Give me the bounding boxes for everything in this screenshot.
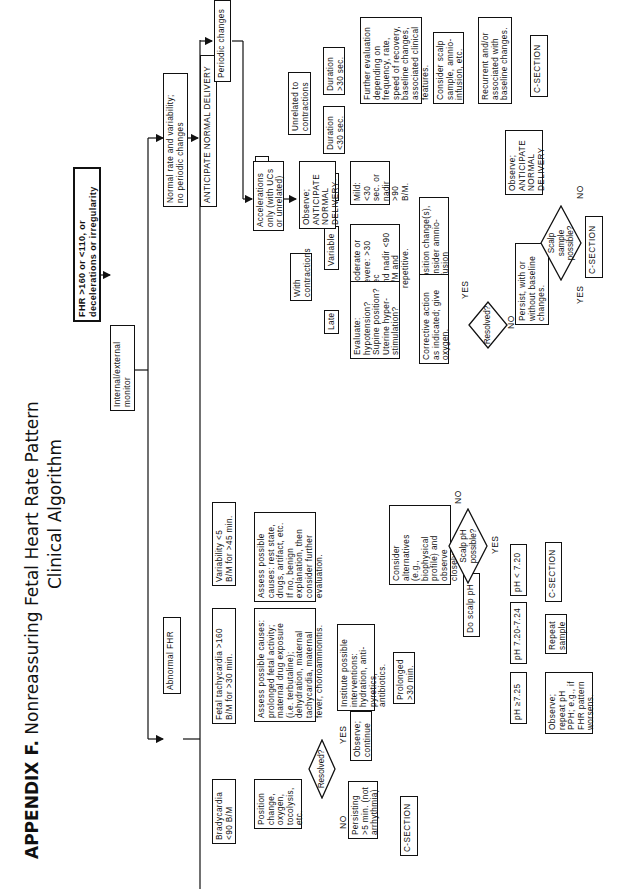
yes-label-scalp-sample: YES	[575, 285, 585, 304]
duration-lt30-node: Duration <30 sec.	[323, 106, 345, 154]
flowchart-canvas: APPENDIX F. Nonreassuring Fetal Heart Ra…	[0, 0, 632, 889]
no-label-scalp-sample: NO	[575, 185, 585, 199]
resolved-mid-label: Resolved?	[483, 301, 493, 349]
bradycardia-node: Bradycardia <90 B/M	[212, 779, 236, 844]
observe-repeat-node: Observe; repeat pH PPH; e.g., if FHR pat…	[545, 672, 593, 734]
observe-continue-node: Observe; continue	[350, 711, 372, 761]
csection-top-node: C-SECTION	[530, 35, 548, 97]
abnormal-node: Abnormal FHR	[163, 617, 181, 694]
with-contractions-node: With contractions	[290, 253, 312, 301]
periodic-node: Periodic changes	[214, 0, 231, 82]
consider-alternatives-node: Consider alternatives (e.g., biophysical…	[389, 505, 451, 585]
scalp-sample-label: Scalp sample possible?	[547, 205, 576, 281]
mild-node: Mild: <30 sec. or nadir >90 B/M.	[350, 161, 390, 205]
recurrent-node: Recurrent and/or associated with baselin…	[478, 17, 512, 104]
assess-variability-node: Assess possible causes: rest state, drug…	[254, 512, 316, 602]
tachycardia-node: Fetal tachycardia >160 B/M for >30 min.	[212, 608, 236, 724]
consider-scalp-node: Consider scalp sample, amnio- infusion, …	[433, 32, 464, 104]
variability-node: Variability <5 B/M for >45 min.	[212, 502, 236, 586]
csection-right-node: C-SECTION	[585, 216, 603, 278]
repeat-sample-node: Repeat sample	[545, 614, 567, 654]
ph-720-724-node: pH 7.20-7.24	[510, 602, 527, 664]
no-label-scalp-ph: NO	[453, 490, 463, 504]
assess-tachycardia-node: Assess possible causes: prolonged fetal …	[254, 608, 316, 722]
persisting-node: Persisting >5 min. (not arrhythmia)	[348, 781, 378, 839]
scalp-ph-label: Scalp pH possible?	[459, 508, 478, 584]
no-label-resolved-brady: NO	[338, 815, 348, 829]
yes-label-scalp-ph: YES	[490, 535, 500, 554]
no-label-resolved-mid: NO	[506, 315, 516, 329]
institute-node: Institute possible interventions: hydrat…	[337, 624, 375, 711]
observe-anticipate-mid-node: Observe; ANTICIPATE NORMAL DELIVERY	[299, 161, 336, 229]
ph-lt-720-node: pH < 7.20	[510, 544, 527, 596]
yes-label-resolved-brady: YES	[338, 725, 348, 744]
ph-ge-725-node: pH ≥7.25	[510, 672, 527, 724]
corrective-node: Corrective action as indicated; give oxy…	[419, 274, 449, 364]
duration-gt30-node: Duration >30 sec.	[323, 47, 345, 95]
monitor-node: Internal/external monitor	[110, 325, 135, 411]
further-evaluation-node: Further evaluation depending on frequenc…	[360, 17, 422, 104]
accelerations-node: Accelerations only (with UCs or unrelate…	[253, 161, 284, 231]
yes-label-resolved-mid: YES	[460, 280, 470, 299]
evaluate-node: Evaluate: hypotension? Supine position? …	[350, 281, 400, 359]
position-brady-node: Position change, oxygen, tocolysis, etc.	[254, 779, 302, 829]
variable-node: Variable	[324, 226, 339, 270]
observe-anticipate-right-node: Observe; ANTICIPATE NORMAL DELIVERY	[505, 130, 543, 195]
start-node: FHR >160 or <110, or decelerations or ir…	[73, 167, 101, 322]
unrelated-node: Unrelated to contractions	[288, 72, 311, 135]
normal-node: Normal rate and variability; no periodic…	[163, 73, 188, 207]
prolonged-node: Prolonged >30 min.	[393, 652, 415, 704]
csection-ph-node: C-SECTION	[545, 542, 562, 602]
late-node: Late	[324, 310, 339, 334]
resolved-brady-label: Resolved?	[317, 739, 327, 799]
csection-brady-node: C-SECTION	[400, 796, 418, 856]
